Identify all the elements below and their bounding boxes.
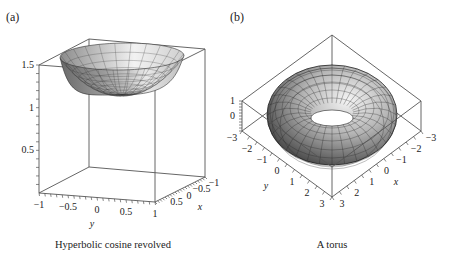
y-tick-label: −0.5: [59, 201, 77, 212]
panel-b-caption: A torus: [317, 239, 348, 250]
torus-hole: [311, 110, 353, 126]
y-tick: [330, 197, 332, 200]
x-tick: [183, 188, 185, 190]
y-tick: [143, 201, 144, 204]
x-tick: [160, 200, 162, 202]
x-axis-label: x: [197, 201, 203, 212]
box-edge: [89, 167, 205, 177]
y-tick-label: −3: [227, 132, 238, 143]
x-tick: [347, 186, 349, 189]
z-tick-label: 0.5: [22, 144, 35, 155]
x-tick: [354, 181, 356, 184]
y-tick: [68, 195, 69, 198]
x-tick: [391, 153, 393, 156]
y-tick: [248, 137, 250, 140]
y-tick: [126, 200, 127, 203]
x-tick: [165, 197, 167, 199]
x-tick-label: 3: [340, 198, 345, 209]
y-tick: [285, 164, 287, 167]
y-tick: [300, 175, 302, 178]
y-tick: [39, 193, 40, 196]
y-tick-label: 0: [275, 165, 280, 176]
y-tick-label: −2: [242, 143, 253, 154]
x-tick: [168, 196, 170, 198]
box-edge: [39, 167, 89, 193]
x-tick: [421, 131, 423, 134]
x-tick: [369, 170, 371, 173]
y-tick: [56, 194, 57, 197]
x-tick: [362, 175, 364, 178]
x-tick-label: 2: [354, 187, 359, 198]
x-tick-label: −2: [411, 143, 422, 154]
y-tick: [103, 198, 104, 201]
x-axis-label: x: [393, 176, 399, 187]
panel-a-label: (a): [6, 10, 19, 24]
y-tick: [323, 192, 325, 195]
torus-surface: [267, 65, 397, 169]
panel-b: (b) 10−3−2−10123y−3−2−10123x A torus: [227, 10, 437, 250]
x-tick: [158, 201, 160, 203]
y-tick: [120, 199, 121, 202]
x-tick-label: 0: [384, 165, 389, 176]
panel-b-label: (b): [230, 10, 244, 24]
y-tick: [308, 181, 310, 184]
x-tick: [377, 164, 379, 167]
y-tick: [240, 131, 242, 134]
x-tick: [399, 148, 401, 151]
y-tick: [62, 195, 63, 198]
x-tick-label: 0.5: [170, 196, 183, 207]
x-tick-label: −1: [396, 154, 407, 165]
y-tick: [315, 186, 317, 189]
y-tick-label: −1: [34, 199, 45, 210]
x-tick: [188, 186, 190, 188]
x-tick: [384, 159, 386, 162]
panel-a: (a) 0.511.5−1−0.500.51y−1−0.500.5x Hyper…: [6, 10, 219, 250]
x-tick: [175, 192, 177, 194]
x-tick: [200, 180, 202, 182]
y-tick: [149, 202, 150, 205]
x-tick: [406, 142, 408, 145]
y-tick-label: 1: [153, 208, 158, 219]
x-tick: [163, 198, 165, 200]
y-tick: [263, 148, 265, 151]
y-tick: [109, 198, 110, 201]
y-tick: [114, 199, 115, 202]
hyperbolic-cosine-surface: [60, 43, 184, 96]
x-tick: [339, 192, 341, 195]
y-tick-label: 0: [95, 204, 100, 215]
y-tick: [132, 200, 133, 203]
x-tick-label: −0.5: [192, 183, 210, 194]
y-tick-label: 2: [305, 187, 310, 198]
z-tick-label: 1: [29, 102, 34, 113]
y-tick: [91, 197, 92, 200]
x-tick: [332, 197, 334, 200]
x-tick-label: −3: [426, 132, 437, 143]
y-tick: [51, 194, 52, 197]
y-tick-label: 0.5: [120, 206, 133, 217]
y-tick: [138, 201, 139, 204]
z-tick-label: 0: [230, 110, 235, 121]
y-axis-label: y: [263, 180, 269, 191]
y-tick: [74, 196, 75, 199]
y-tick-label: −1: [257, 154, 268, 165]
x-tick-label: 0: [187, 190, 192, 201]
y-tick: [278, 159, 280, 162]
x-tick: [203, 178, 205, 180]
x-tick: [414, 137, 416, 140]
y-tick: [45, 193, 46, 196]
panel-a-caption: Hyperbolic cosine revolved: [55, 239, 172, 250]
x-tick: [205, 177, 207, 179]
y-tick: [85, 197, 86, 200]
y-tick: [270, 153, 272, 156]
y-tick: [293, 170, 295, 173]
y-axis-label: y: [89, 218, 95, 229]
z-tick-label: 1.5: [22, 59, 35, 70]
x-tick-label: 1: [369, 176, 374, 187]
y-tick: [80, 196, 81, 199]
figure: (a) 0.511.5−1−0.500.51y−1−0.500.5x Hyper…: [0, 0, 452, 259]
y-tick-label: 3: [320, 198, 325, 209]
y-tick: [97, 198, 98, 201]
z-tick-label: 1: [230, 95, 235, 106]
x-tick: [178, 191, 180, 193]
x-tick: [180, 190, 182, 192]
